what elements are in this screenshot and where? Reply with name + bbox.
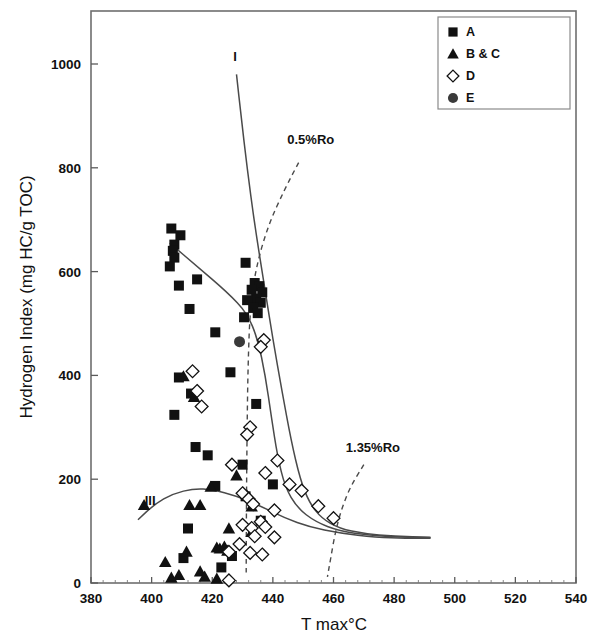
data-point-d [186, 365, 199, 378]
maturity-curves [138, 74, 431, 538]
data-point-b-c [159, 556, 172, 567]
data-point-b-c [194, 499, 207, 510]
data-point-d [233, 538, 246, 551]
data-point-a [253, 308, 263, 318]
data-point-d [312, 500, 325, 513]
data-point-d [223, 574, 236, 587]
data-point-b-c [180, 546, 193, 557]
y-tick-label: 0 [73, 576, 81, 591]
x-tick-label: 520 [504, 591, 527, 606]
x-tick-label: 500 [443, 591, 466, 606]
data-point-a [239, 312, 249, 322]
annotation-iii: III [145, 493, 156, 508]
x-tick-label: 420 [201, 591, 224, 606]
data-point-a [210, 327, 220, 337]
data-point-a [166, 224, 176, 234]
x-tick-label: 540 [565, 591, 588, 606]
data-point-d [283, 478, 296, 491]
data-point-a [183, 524, 193, 534]
legend-label-d: D [466, 69, 475, 83]
data-point-a [251, 399, 261, 409]
x-tick-label: 480 [383, 591, 406, 606]
data-point-a [241, 258, 251, 268]
y-tick-label: 200 [58, 472, 81, 487]
y-tick-label: 400 [58, 368, 81, 383]
maturity-curve-type-III-maturity-path [138, 489, 431, 538]
y-axis-title: Hydrogen Index (mg HC/g TOC) [17, 175, 36, 418]
x-axis-ticks: 380400420440460480500520540 [80, 577, 588, 606]
legend-label-b-c: B & C [466, 47, 500, 61]
y-tick-label: 800 [58, 161, 81, 176]
y-tick-label: 1000 [51, 57, 81, 72]
chart-figure: 380400420440460480500520540 020040060080… [0, 0, 595, 640]
data-point-d [256, 548, 269, 561]
data-point-d [226, 458, 239, 471]
data-point-b-c [223, 522, 236, 533]
data-point-a [169, 253, 179, 263]
x-axis-title: T max°C [301, 615, 367, 634]
x-tick-label: 400 [140, 591, 163, 606]
data-point-a [165, 261, 175, 271]
data-point-a [216, 562, 226, 572]
data-point-b-c [183, 499, 196, 510]
data-point-a [203, 450, 213, 460]
data-point-a [174, 281, 184, 291]
data-point-a [268, 479, 278, 489]
data-point-a [169, 410, 179, 420]
legend: AB & CDE [438, 17, 570, 109]
legend-label-e: E [466, 91, 474, 105]
y-tick-label: 600 [58, 265, 81, 280]
data-point-d [244, 546, 257, 559]
legend-box [438, 17, 570, 109]
data-point-a [191, 442, 201, 452]
data-point-a [192, 274, 202, 284]
legend-marker-a [448, 27, 457, 36]
data-point-a [247, 285, 257, 295]
data-point-e [234, 336, 245, 347]
data-point-d [259, 467, 272, 480]
x-tick-label: 460 [322, 591, 345, 606]
x-tick-label: 440 [262, 591, 285, 606]
hi-vs-tmax-scatter-plot: 380400420440460480500520540 020040060080… [0, 0, 595, 640]
data-points [138, 224, 340, 587]
series-b-c [138, 370, 258, 584]
x-tick-label: 380 [80, 591, 103, 606]
annotation-i: I [233, 49, 237, 64]
data-point-a [225, 367, 235, 377]
data-point-a [185, 304, 195, 314]
curve-annotations: I0.5%Ro1.35%RoIII [145, 49, 400, 508]
annotation-0-5-ro: 0.5%Ro [287, 132, 334, 147]
data-point-d [268, 531, 281, 544]
data-point-d [271, 454, 284, 467]
legend-label-a: A [466, 25, 475, 39]
annotation-1-35-ro: 1.35%Ro [346, 440, 400, 455]
series-e [234, 336, 245, 347]
legend-marker-e [448, 93, 458, 103]
data-point-a [175, 230, 185, 240]
